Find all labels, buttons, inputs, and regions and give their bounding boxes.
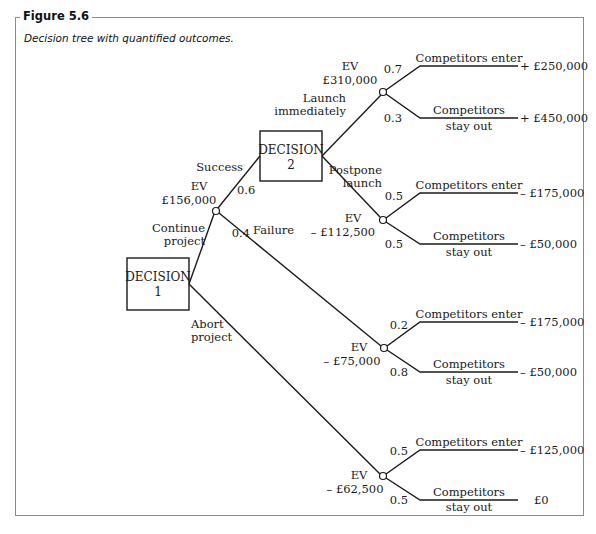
outcome-line: [386, 66, 518, 90]
chance-node-postpone: [380, 217, 387, 224]
outcome-probability: 0.7: [384, 62, 402, 76]
abort-label-2: project: [191, 330, 233, 344]
outcome-label: Competitors enter: [416, 435, 523, 449]
success-probability: 0.6: [237, 183, 255, 197]
outcome-label: Competitors enter: [416, 178, 523, 192]
branch-abort-project: [189, 284, 380, 474]
continue-ev-label: EV: [191, 179, 208, 193]
outcome-probability: 0.5: [390, 444, 408, 458]
chance-node-failure: [381, 345, 388, 352]
decision-tree-diagram: DECISION 1 DECISION 2 Continue project A…: [0, 0, 596, 534]
chance-node-launch: [380, 89, 387, 96]
failure-label: Failure: [253, 223, 294, 237]
outcome-label-2: stay out: [446, 500, 493, 514]
launch-ev-value: £310,000: [323, 73, 378, 87]
decision-1-box: [127, 258, 189, 310]
outcome-value: £0: [534, 493, 549, 507]
postpone-ev-value: – £112,500: [311, 225, 375, 239]
failure-ev-label: EV: [351, 340, 368, 354]
continue-label: Continue: [152, 221, 205, 235]
outcome-label-2: stay out: [446, 245, 493, 259]
launch-label: Launch: [303, 91, 347, 105]
decision-1-number: 1: [154, 285, 162, 299]
outcome-label: Competitors: [433, 357, 505, 371]
outcome-probability: 0.5: [385, 189, 403, 203]
outcome-label-2: stay out: [446, 119, 493, 133]
outcome-value: + £250,000: [520, 59, 588, 73]
success-label: Success: [196, 160, 243, 174]
outcome-value: – £50,000: [520, 365, 577, 379]
launch-ev-label: EV: [342, 59, 359, 73]
abort-ev-label: EV: [351, 468, 368, 482]
chance-node-continue: [213, 208, 220, 215]
decision-2-number: 2: [287, 158, 295, 172]
decision-2-label: DECISION: [258, 143, 324, 157]
outcome-probability: 0.3: [384, 111, 402, 125]
outcome-probability: 0.5: [385, 237, 403, 251]
postpone-label-2: launch: [343, 176, 383, 190]
abort-label: Abort: [190, 317, 224, 331]
outcome-value: – £125,000: [520, 443, 584, 457]
postpone-ev-label: EV: [345, 211, 362, 225]
postpone-label: Postpone: [329, 163, 382, 177]
outcome-label-2: stay out: [446, 373, 493, 387]
outcome-label: Competitors enter: [416, 307, 523, 321]
continue-label-2: project: [164, 234, 206, 248]
failure-probability: 0.4: [232, 226, 250, 240]
outcome-probability: 0.5: [390, 493, 408, 507]
outcome-label: Competitors: [433, 229, 505, 243]
outcome-value: + £450,000: [520, 111, 588, 125]
launch-label-2: immediately: [274, 104, 346, 118]
outcome-value: – £175,000: [520, 186, 584, 200]
decision-1-label: DECISION: [125, 270, 191, 284]
outcome-value: – £175,000: [520, 315, 584, 329]
outcome-label: Competitors: [433, 103, 505, 117]
outcome-line: [386, 193, 518, 218]
outcome-label: Competitors enter: [416, 51, 523, 65]
outcome-label: Competitors: [433, 485, 505, 499]
outcome-value: – £50,000: [520, 237, 577, 251]
outcome-probability: 0.8: [390, 365, 408, 379]
abort-ev-value: – £62,500: [327, 482, 384, 496]
continue-ev-value: £156,000: [162, 193, 217, 207]
chance-node-abort: [380, 473, 387, 480]
outcome-probability: 0.2: [390, 318, 408, 332]
failure-ev-value: – £75,000: [324, 354, 381, 368]
